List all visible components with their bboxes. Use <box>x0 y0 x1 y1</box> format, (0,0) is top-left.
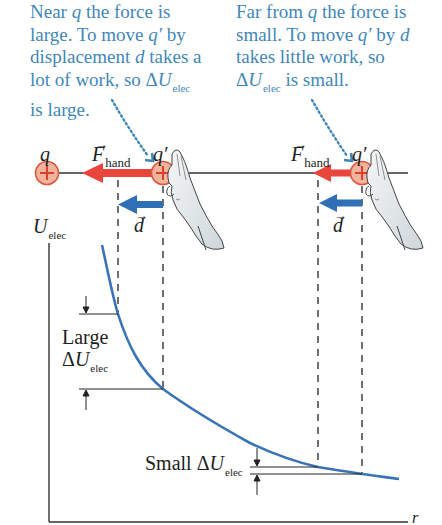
vector-arrow-icon: → <box>95 134 108 156</box>
small-delta-u-label: Small ΔUelec <box>145 452 243 483</box>
force-label-near: → Fhand <box>92 143 131 174</box>
charge-label-q: q <box>40 143 50 165</box>
hand-icon-far <box>366 150 423 250</box>
test-charge-label-near: q′ <box>153 143 167 165</box>
potential-energy-curve <box>102 245 399 479</box>
hand-icon-near <box>167 150 224 250</box>
vector-arrow-icon: → <box>294 134 307 156</box>
y-axis-label: Uelec <box>33 215 66 246</box>
vector-arrow-icon: → <box>135 205 148 227</box>
displacement-label-near: → d <box>134 214 144 236</box>
x-axis-label: r <box>412 507 418 525</box>
vector-arrow-icon: → <box>334 205 347 227</box>
displacement-label-far: → d <box>333 214 343 236</box>
force-label-far: → Fhand <box>291 143 330 174</box>
test-charge-label-far: q′ <box>352 143 366 165</box>
diagram-canvas <box>0 0 442 525</box>
large-delta-u-label: Large ΔUelec <box>62 326 108 379</box>
